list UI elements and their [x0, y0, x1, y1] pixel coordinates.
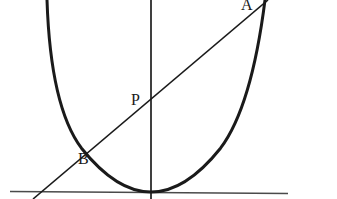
geometry-figure: A P B — [0, 0, 337, 199]
point-label-p: P — [131, 92, 140, 108]
diagram-canvas — [0, 0, 337, 199]
point-label-a: A — [241, 0, 253, 13]
axes-group — [10, 0, 288, 199]
point-label-b: B — [78, 151, 89, 167]
